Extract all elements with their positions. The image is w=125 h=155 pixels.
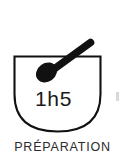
right-edge-artifact (116, 92, 119, 101)
preparation-caption-label: PRÉPARATION (0, 140, 125, 154)
screenshot-canvas: 1h5 PRÉPARATION (0, 0, 125, 155)
preparation-duration-label: 1h5 (0, 88, 107, 109)
mixing-bowl-with-spoon-icon (0, 0, 125, 155)
preparation-time-icon-card: 1h5 PRÉPARATION (0, 0, 125, 155)
